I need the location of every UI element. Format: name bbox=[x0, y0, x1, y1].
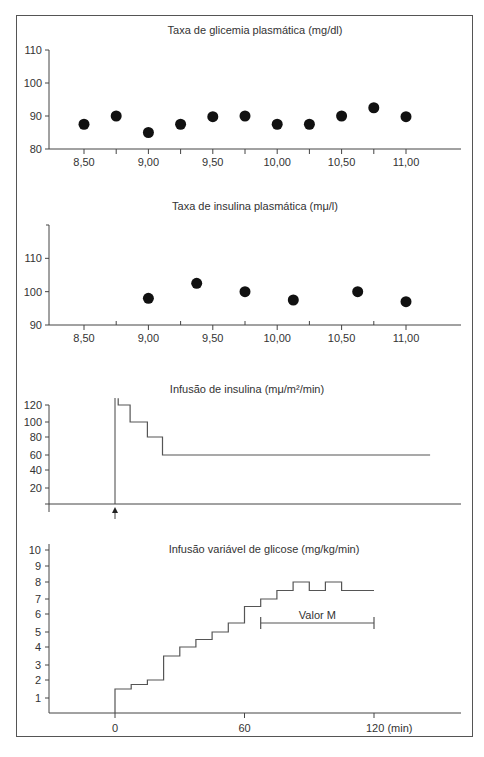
y-tick-label: 2 bbox=[35, 674, 41, 686]
y-tick-label: 4 bbox=[35, 641, 41, 653]
y-tick-label: 110 bbox=[24, 44, 42, 56]
x-tick-label: 11,00 bbox=[393, 156, 420, 168]
x-tick-label: 60 bbox=[238, 722, 250, 734]
data-point bbox=[207, 111, 218, 122]
x-tick-label: 10,50 bbox=[328, 332, 356, 344]
x-tick-label: 9,50 bbox=[202, 156, 223, 168]
x-tick-label: 10,50 bbox=[328, 156, 356, 168]
chart-title: Infusão variável de glicose (mg/kg/min) bbox=[169, 543, 360, 555]
data-point bbox=[288, 295, 299, 306]
y-tick-label: 1 bbox=[35, 692, 41, 704]
y-tick-label: 90 bbox=[30, 110, 42, 122]
chart-insulina: Taxa de insulina plasmática (mμ/l) 90100… bbox=[24, 200, 461, 344]
x-tick-label: 9,50 bbox=[202, 332, 223, 344]
y-tick-label: 100 bbox=[24, 286, 42, 298]
y-tick-label: 100 bbox=[24, 416, 42, 428]
x-tick-label: 11,00 bbox=[393, 332, 420, 344]
data-point bbox=[143, 293, 154, 304]
y-tick-label: 100 bbox=[24, 77, 42, 89]
chart-glicemia: Taxa de glicemia plasmática (mg/dl) 8090… bbox=[24, 24, 461, 168]
y-tick-label: 110 bbox=[24, 252, 42, 264]
y-tick-label: 5 bbox=[35, 626, 41, 638]
y-tick-label: 7 bbox=[35, 593, 41, 605]
data-point bbox=[304, 119, 315, 130]
data-point bbox=[175, 119, 186, 130]
x-tick-label: 8,50 bbox=[73, 332, 94, 344]
y-tick-label: 3 bbox=[35, 659, 41, 671]
start-arrow-icon bbox=[112, 507, 118, 513]
chart-title: Infusão de insulina (mμ/m²/min) bbox=[170, 383, 324, 395]
x-tick-label: 10,00 bbox=[263, 156, 291, 168]
data-point bbox=[272, 119, 283, 130]
data-point bbox=[79, 119, 90, 130]
x-tick-label: 9,00 bbox=[138, 156, 159, 168]
data-point bbox=[143, 127, 154, 138]
chart-title: Taxa de glicemia plasmática (mg/dl) bbox=[168, 24, 343, 36]
chart-infusao-insulina: Infusão de insulina (mμ/m²/min) 20406080… bbox=[24, 383, 461, 519]
data-point bbox=[240, 286, 251, 297]
y-tick-label: 10 bbox=[29, 544, 41, 556]
y-tick-label: 60 bbox=[30, 449, 42, 461]
y-tick-label: 40 bbox=[30, 464, 42, 476]
insulin-step-line bbox=[118, 398, 430, 455]
y-tick-label: 9 bbox=[35, 560, 41, 572]
x-tick-label: 10,00 bbox=[263, 332, 291, 344]
y-tick-label: 80 bbox=[30, 143, 42, 155]
data-point bbox=[401, 296, 412, 307]
data-point bbox=[352, 286, 363, 297]
x-tick-label: 9,00 bbox=[138, 332, 159, 344]
chart-title: Taxa de insulina plasmática (mμ/l) bbox=[172, 200, 338, 212]
y-tick-label: 120 bbox=[24, 399, 42, 411]
data-point bbox=[336, 111, 347, 122]
x-tick-label: 0 bbox=[112, 722, 118, 734]
x-tick-label: 8,50 bbox=[73, 156, 94, 168]
chart-infusao-glicose: Infusão variável de glicose (mg/kg/min) … bbox=[29, 543, 461, 734]
data-point bbox=[191, 278, 202, 289]
figure-svg: Taxa de glicemia plasmática (mg/dl) 8090… bbox=[0, 0, 484, 757]
y-tick-label: 8 bbox=[35, 576, 41, 588]
data-point bbox=[368, 102, 379, 113]
x-tick-label: 120 (min) bbox=[366, 722, 412, 734]
y-tick-label: 6 bbox=[35, 608, 41, 620]
y-tick-label: 90 bbox=[30, 319, 42, 331]
data-point bbox=[111, 111, 122, 122]
data-point bbox=[240, 111, 251, 122]
glucose-step-line bbox=[115, 582, 374, 713]
valor-m-label: Valor M bbox=[299, 609, 336, 621]
data-point bbox=[401, 111, 412, 122]
y-tick-label: 80 bbox=[30, 431, 42, 443]
y-tick-label: 20 bbox=[30, 482, 42, 494]
